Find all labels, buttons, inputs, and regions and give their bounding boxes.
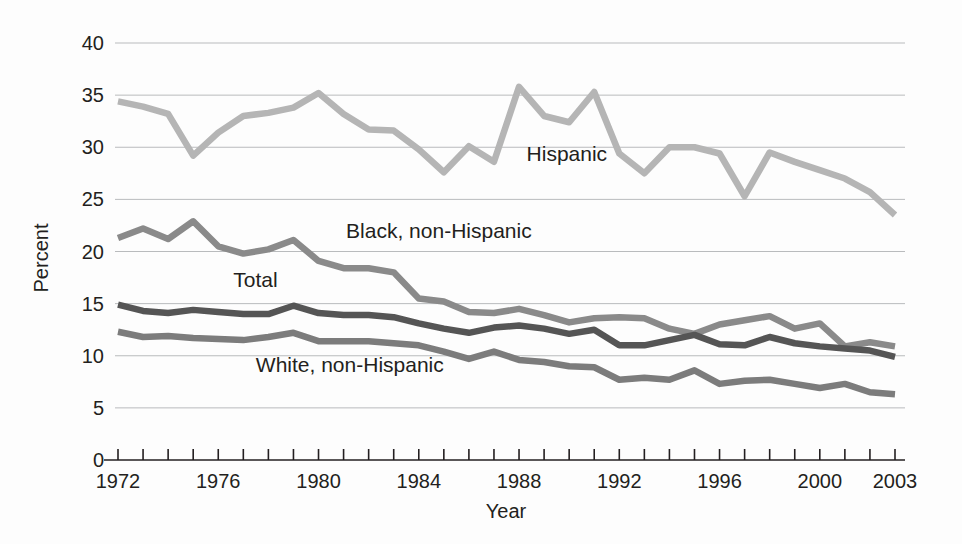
x-axis-title: Year — [486, 500, 527, 522]
y-tick-label-40: 40 — [82, 32, 104, 54]
series-annotation-labels: HispanicBlack, non-HispanicTotalWhite, n… — [233, 142, 607, 377]
chart-container: 0510152025303540 19721976198019841988199… — [0, 0, 962, 544]
x-axis-tick-labels: 197219761980198419881992199620002003 — [96, 470, 918, 492]
x-tick-label-1996: 1996 — [697, 470, 742, 492]
y-axis-tick-labels: 0510152025303540 — [82, 32, 104, 471]
x-tick-label-1972: 1972 — [96, 470, 141, 492]
y-axis-title: Percent — [30, 223, 52, 292]
line-chart: 0510152025303540 19721976198019841988199… — [0, 0, 962, 544]
x-tick-label-2003: 2003 — [873, 470, 918, 492]
y-tick-label-10: 10 — [82, 345, 104, 367]
y-tick-label-30: 30 — [82, 136, 104, 158]
y-tick-label-20: 20 — [82, 241, 104, 263]
x-tick-label-2000: 2000 — [798, 470, 843, 492]
x-tick-label-1976: 1976 — [196, 470, 241, 492]
series-line-hispanic — [118, 87, 895, 215]
series-label-hispanic: Hispanic — [527, 142, 608, 165]
series-label-white-non-hispanic: White, non-Hispanic — [256, 353, 444, 376]
x-tick-label-1988: 1988 — [497, 470, 542, 492]
y-tick-label-15: 15 — [82, 293, 104, 315]
tick-marks-group — [118, 449, 895, 460]
series-label-total: Total — [233, 268, 277, 291]
y-tick-label-0: 0 — [93, 449, 104, 471]
y-tick-label-5: 5 — [93, 397, 104, 419]
x-tick-label-1992: 1992 — [597, 470, 642, 492]
series-label-black-non-hispanic: Black, non-Hispanic — [346, 219, 532, 242]
x-tick-label-1980: 1980 — [296, 470, 341, 492]
y-tick-label-35: 35 — [82, 84, 104, 106]
x-tick-label-1984: 1984 — [397, 470, 442, 492]
y-tick-label-25: 25 — [82, 188, 104, 210]
